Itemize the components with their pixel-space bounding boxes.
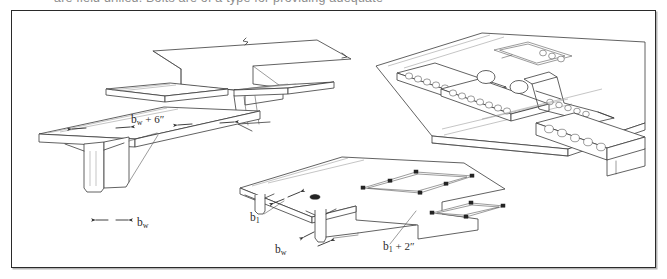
label-b1-plus-2: b1 + 2″: [383, 240, 415, 254]
label-bw-plus-6: bw + 6″: [131, 113, 164, 127]
view-center-deck-on-tee-beams: [240, 157, 505, 246]
view-right-deck-shear-pockets: [376, 33, 645, 176]
label-b1-center: b1: [250, 211, 260, 225]
caption-text: are field drilled. Bolts are of a type f…: [54, 0, 383, 5]
label-bw-left: bw: [137, 216, 149, 230]
figure-artwork: .ln { fill:none; stroke:#3a3a3a; stroke-…: [12, 11, 655, 267]
label-bw-center: bw: [275, 243, 287, 257]
clipped-caption-strip: are field drilled. Bolts are of a type f…: [0, 0, 667, 9]
figure-page: are field drilled. Bolts are of a type f…: [0, 0, 667, 279]
figure-frame: .ln { fill:none; stroke:#3a3a3a; stroke-…: [11, 10, 656, 268]
